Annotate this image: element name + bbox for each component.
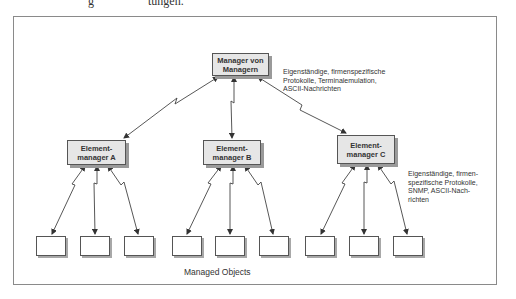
element-manager-c-line1: Element- xyxy=(347,141,386,150)
element-manager-c-line2: manager C xyxy=(347,150,386,159)
managed-object-2 xyxy=(80,236,110,256)
managed-object-6 xyxy=(259,236,289,256)
note-bottom-protocols: Eigenständige, firmen- spezifische Proto… xyxy=(408,170,478,204)
managed-object-4 xyxy=(172,236,202,256)
manager-of-managers-line1: Manager von xyxy=(217,56,263,65)
element-manager-a-line1: Element- xyxy=(77,144,116,153)
element-manager-a-line2: manager A xyxy=(77,153,116,162)
managed-object-1 xyxy=(36,236,66,256)
manager-of-managers-box: Manager vonManagern xyxy=(212,53,269,76)
element-manager-b-line1: Element- xyxy=(213,144,252,153)
managed-objects-label: Managed Objects xyxy=(184,267,251,277)
note-top-protocols: Eigenständige, firmenspezifische Protoko… xyxy=(283,68,385,94)
manager-of-managers-line2: Managern xyxy=(217,65,263,74)
element-manager-b-box: Element-manager B xyxy=(203,140,261,165)
managed-object-3 xyxy=(124,236,154,256)
managed-object-5 xyxy=(215,236,245,256)
managed-object-8 xyxy=(349,236,379,256)
element-manager-b-line2: manager B xyxy=(213,153,252,162)
element-manager-a-box: Element-manager A xyxy=(67,140,126,165)
managed-object-7 xyxy=(305,236,335,256)
element-manager-c-box: Element-manager C xyxy=(337,135,395,164)
managed-object-9 xyxy=(393,236,423,256)
